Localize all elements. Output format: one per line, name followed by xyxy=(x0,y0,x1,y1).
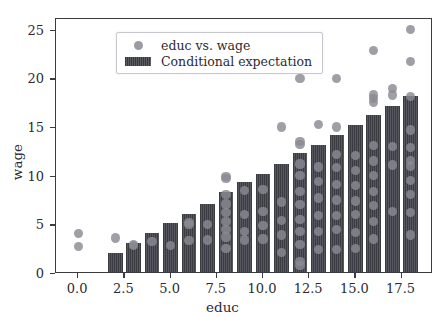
scatter-point xyxy=(369,234,378,243)
scatter-point xyxy=(295,159,304,168)
scatter-point xyxy=(406,161,415,170)
scatter-point xyxy=(277,230,286,239)
y-tick xyxy=(50,127,55,128)
scatter-point xyxy=(277,197,286,206)
scatter-point xyxy=(111,233,120,242)
x-tick xyxy=(77,273,78,278)
scatter-point xyxy=(258,207,267,216)
scatter-point xyxy=(351,228,360,237)
x-tick xyxy=(123,273,124,278)
scatter-point xyxy=(221,174,230,183)
scatter-point xyxy=(74,242,83,251)
x-tick xyxy=(170,273,171,278)
scatter-point xyxy=(295,227,304,236)
scatter-point xyxy=(332,74,341,83)
scatter-point xyxy=(203,235,212,244)
bar-swatch-icon xyxy=(123,57,153,66)
scatter-point xyxy=(295,215,304,224)
scatter-point xyxy=(295,240,304,249)
y-tick xyxy=(50,224,55,225)
scatter-point xyxy=(295,187,304,196)
scatter-point xyxy=(314,193,323,202)
x-tick xyxy=(308,273,309,278)
x-tick xyxy=(216,273,217,278)
scatter-point xyxy=(240,235,249,244)
scatter-point xyxy=(406,57,415,66)
y-tick-label: 10 xyxy=(27,168,44,183)
scatter-point xyxy=(295,140,304,149)
x-tick-label: 10.0 xyxy=(247,281,276,296)
scatter-point xyxy=(258,185,267,194)
scatter-point xyxy=(351,196,360,205)
x-tick-label: 2.5 xyxy=(113,281,134,296)
scatter-point xyxy=(388,160,397,169)
scatter-point xyxy=(277,216,286,225)
y-tick xyxy=(50,30,55,31)
scatter-point xyxy=(351,181,360,190)
scatter-point xyxy=(369,46,378,55)
scatter-point xyxy=(221,208,230,217)
bar xyxy=(385,106,400,272)
scatter-point xyxy=(314,162,323,171)
legend-entry-scatter: educ vs. wage xyxy=(123,37,312,53)
scatter-point xyxy=(332,122,341,131)
y-tick-label: 5 xyxy=(36,217,44,232)
x-tick-label: 7.5 xyxy=(205,281,226,296)
scatter-point xyxy=(184,220,193,229)
scatter-marker-icon xyxy=(123,41,153,50)
scatter-point xyxy=(221,190,230,199)
scatter-point xyxy=(147,237,156,246)
y-tick xyxy=(50,176,55,177)
scatter-point xyxy=(295,171,304,180)
scatter-point xyxy=(295,74,304,83)
scatter-point xyxy=(277,122,286,131)
plot-area: educ vs. wage Conditional expectation xyxy=(55,18,432,273)
legend: educ vs. wage Conditional expectation xyxy=(116,32,323,74)
x-tick-label: 15.0 xyxy=(340,281,369,296)
y-tick-label: 25 xyxy=(27,22,44,37)
x-axis-label: educ xyxy=(0,299,445,315)
y-tick-label: 0 xyxy=(36,266,44,281)
scatter-point xyxy=(314,227,323,236)
scatter-point xyxy=(221,244,230,253)
scatter-point xyxy=(314,120,323,129)
scatter-point xyxy=(295,200,304,209)
x-tick-label: 17.5 xyxy=(386,281,415,296)
y-tick-label: 15 xyxy=(27,120,44,135)
scatter-point xyxy=(388,90,397,99)
x-tick-label: 0.0 xyxy=(67,281,88,296)
scatter-point xyxy=(203,220,212,229)
scatter-point xyxy=(351,151,360,160)
scatter-point xyxy=(406,230,415,239)
scatter-point xyxy=(369,98,378,107)
x-tick xyxy=(401,273,402,278)
x-tick xyxy=(354,273,355,278)
figure: educ vs. wage Conditional expectation 0.… xyxy=(0,0,445,323)
legend-entry-bar: Conditional expectation xyxy=(123,53,312,69)
y-tick xyxy=(50,78,55,79)
scatter-point xyxy=(295,261,304,270)
y-axis-label: wage xyxy=(9,102,25,222)
legend-label-scatter: educ vs. wage xyxy=(161,38,250,53)
legend-label-bar: Conditional expectation xyxy=(161,54,312,69)
scatter-point xyxy=(258,234,267,243)
y-tick xyxy=(50,273,55,274)
scatter-point xyxy=(406,25,415,34)
scatter-point xyxy=(74,229,83,238)
scatter-point xyxy=(314,177,323,186)
scatter-point xyxy=(258,221,267,230)
bar xyxy=(108,253,123,272)
scatter-point xyxy=(388,142,397,151)
y-tick-label: 20 xyxy=(27,71,44,86)
x-tick-label: 12.5 xyxy=(294,281,323,296)
scatter-point xyxy=(221,232,230,241)
x-tick xyxy=(262,273,263,278)
scatter-point xyxy=(406,125,415,134)
scatter-point xyxy=(129,241,138,250)
scatter-point xyxy=(240,186,249,195)
x-tick-label: 5.0 xyxy=(159,281,180,296)
